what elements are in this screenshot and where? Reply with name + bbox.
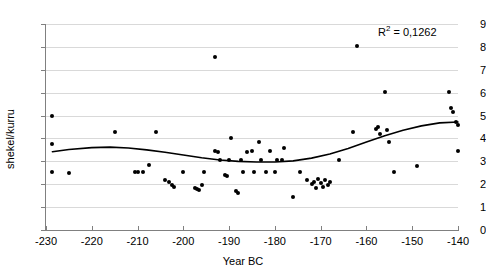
data-point — [141, 170, 145, 174]
x-tick-label: -200 — [172, 236, 194, 247]
data-point — [273, 170, 277, 174]
data-point — [282, 146, 286, 150]
x-tick-label: -210 — [127, 236, 149, 247]
data-point — [67, 171, 71, 175]
data-point — [314, 186, 318, 190]
data-point — [328, 180, 332, 184]
data-point — [447, 90, 451, 94]
x-tick-mark — [412, 226, 413, 231]
data-point — [239, 158, 243, 162]
x-tick-mark — [92, 226, 93, 231]
x-tick-mark — [183, 226, 184, 231]
data-point — [172, 185, 176, 189]
x-tick-mark — [229, 226, 230, 231]
x-tick-mark — [46, 226, 47, 231]
x-tick-label: -140 — [447, 236, 469, 247]
r-squared-symbol: R — [378, 26, 386, 38]
data-point — [113, 130, 117, 134]
x-tick-label: -220 — [81, 236, 103, 247]
x-tick-mark — [138, 226, 139, 231]
x-tick-mark — [458, 226, 459, 231]
data-point — [321, 185, 325, 189]
data-point — [376, 125, 380, 129]
data-point — [147, 163, 151, 167]
x-tick-label: -190 — [218, 236, 240, 247]
x-tick-mark — [321, 226, 322, 231]
x-axis-line — [45, 230, 458, 231]
data-point — [305, 178, 309, 182]
data-point — [291, 195, 295, 199]
data-point — [449, 106, 453, 110]
x-tick-label: -150 — [401, 236, 423, 247]
r-squared-annotation: R2 = 0,1262 — [378, 24, 437, 38]
x-tick-label: -230 — [35, 236, 57, 247]
data-point — [456, 149, 460, 153]
x-tick-label: -170 — [310, 236, 332, 247]
trendline — [46, 24, 458, 230]
y-axis-title: shekel/kurru — [4, 79, 16, 199]
x-axis-title: Year BC — [0, 255, 486, 267]
data-point — [225, 174, 229, 178]
scatter-chart: shekel/kurru 0123456789 -230-220-210-200… — [0, 0, 486, 277]
data-point — [415, 164, 419, 168]
data-point — [264, 170, 268, 174]
data-point — [383, 90, 387, 94]
data-point — [250, 149, 254, 153]
x-tick-mark — [275, 226, 276, 231]
data-point — [241, 170, 245, 174]
data-point — [326, 183, 330, 187]
data-point — [392, 170, 396, 174]
data-point — [252, 170, 256, 174]
data-point — [323, 178, 327, 182]
data-point — [181, 170, 185, 174]
data-point — [312, 180, 316, 184]
data-point — [154, 130, 158, 134]
r-squared-value: = 0,1262 — [390, 26, 436, 38]
data-point — [456, 123, 460, 127]
x-tick-label: -180 — [264, 236, 286, 247]
data-point — [202, 170, 206, 174]
data-point — [316, 177, 320, 181]
data-point — [280, 158, 284, 162]
data-point — [298, 170, 302, 174]
data-point — [257, 140, 261, 144]
data-point — [351, 130, 355, 134]
x-tick-label: -160 — [355, 236, 377, 247]
plot-area — [46, 24, 458, 230]
data-point — [216, 150, 220, 154]
x-tick-mark — [366, 226, 367, 231]
